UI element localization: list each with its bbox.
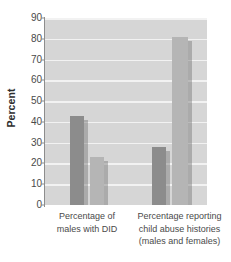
y-axis-tick-0: 0 [22, 200, 42, 210]
y-axis-tick-90: 90 [22, 13, 42, 23]
y-axis-tick-30: 30 [22, 138, 42, 148]
x-axis-label-group-0: Percentage ofmales with DID [44, 210, 130, 235]
bar-chart: Percent 9080706050403020100 Percentage o… [0, 0, 231, 262]
y-axis-tick-40: 40 [22, 117, 42, 127]
y-axis-tick-labels: 9080706050403020100 [22, 18, 42, 205]
y-axis-tick-60: 60 [22, 75, 42, 85]
x-axis-label-group-0-line-0: Percentage of [44, 210, 130, 223]
bar-group-0-series-0 [70, 116, 84, 205]
bar-group-1-series-0 [152, 147, 166, 205]
y-axis-tick-80: 80 [22, 34, 42, 44]
y-axis-tick-50: 50 [22, 96, 42, 106]
y-axis-tick-20: 20 [22, 158, 42, 168]
y-axis-title: Percent [5, 76, 17, 140]
x-axis-category-labels: Percentage ofmales with DID Percentage r… [0, 210, 231, 262]
y-axis-tick-70: 70 [22, 55, 42, 65]
x-axis-label-group-1-line-0: Percentage reporting [128, 210, 231, 223]
x-axis-label-group-1: Percentage reportingchild abuse historie… [128, 210, 231, 248]
plot-area [45, 18, 207, 205]
x-axis-label-group-1-line-1: child abuse histories [128, 223, 231, 236]
bar-group-0-series-1 [90, 157, 104, 205]
x-axis-label-group-1-line-2: (males and females) [128, 235, 231, 248]
gridline-90 [45, 18, 207, 20]
x-axis-label-group-0-line-1: males with DID [44, 223, 130, 236]
y-axis-tick-10: 10 [22, 179, 42, 189]
bar-group-1-series-1 [172, 37, 188, 205]
